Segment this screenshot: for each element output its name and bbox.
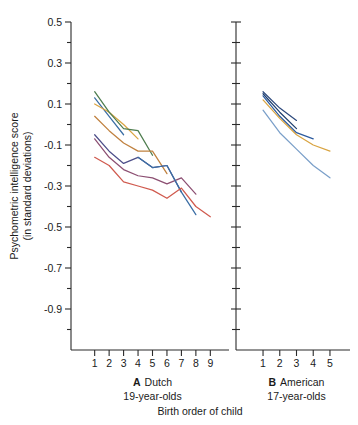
panel-name: American (280, 376, 325, 388)
panel-letter: B (269, 376, 277, 388)
x-tick-label-a: 8 (193, 357, 199, 369)
panel-caption-text: BAmerican (269, 376, 325, 388)
x-tick-label-b: 3 (294, 357, 300, 369)
y-tick-label: -0.9 (44, 303, 62, 315)
series-line-family-size-3 (95, 104, 138, 139)
y-axis-label: Psychometric intelligence score (in stan… (8, 112, 33, 259)
series-line-family-size-4 (95, 92, 153, 156)
x-tick-label-b: 4 (310, 357, 316, 369)
x-tick-label-a: 7 (178, 357, 184, 369)
series-line-family-size-5 (95, 116, 167, 173)
birth-order-intelligence-chart: Psychometric intelligence score (in stan… (0, 0, 358, 425)
panel-b-american: 12345BAmerican17-year-olds (231, 22, 350, 402)
panel-caption-a: ADutch19-year-olds (123, 376, 181, 402)
panel-caption-text: ADutch (133, 376, 172, 388)
x-tick-label-b: 5 (327, 357, 333, 369)
x-axis-label: Birth order of child (157, 405, 242, 417)
y-tick-label: 0.1 (47, 98, 62, 110)
series-line-family-size-2 (95, 98, 124, 135)
x-tick-label-a: 2 (106, 357, 112, 369)
x-tick-label-a: 9 (207, 357, 213, 369)
x-tick-label-a: 3 (121, 357, 127, 369)
panel-a-dutch: 123456789ADutch19-year-olds (71, 92, 229, 402)
y-tick-label: -0.7 (44, 262, 62, 274)
y-axis-label-line1: Psychometric intelligence score (8, 112, 20, 259)
series-line-family-size-9 (95, 157, 211, 216)
y-tick-label: 0.3 (47, 57, 62, 69)
x-tick-label-b: 1 (260, 357, 266, 369)
y-tick-label: 0.5 (47, 16, 62, 28)
x-tick-label-b: 2 (277, 357, 283, 369)
x-tick-label-a: 1 (92, 357, 98, 369)
panel-subtitle: 17-year-olds (267, 390, 325, 402)
panel-caption-b: BAmerican17-year-olds (267, 376, 325, 402)
panel-name: Dutch (145, 376, 173, 388)
x-tick-label-a: 5 (150, 357, 156, 369)
y-tick-label: -0.3 (44, 180, 62, 192)
series-line-family-size-3 (263, 94, 296, 129)
panel-subtitle: 19-year-olds (123, 390, 181, 402)
y-tick-label: -0.5 (44, 221, 62, 233)
panel-letter: A (133, 376, 141, 388)
y-axis-label-line2: (in standard deviations) (21, 131, 33, 240)
y-tick-label: -0.1 (44, 139, 62, 151)
x-tick-label-a: 6 (164, 357, 170, 369)
y-axis: 0.50.30.1-0.1-0.3-0.5-0.7-0.9 (44, 16, 71, 350)
figure-container: Psychometric intelligence score (in stan… (0, 0, 358, 425)
x-tick-label-a: 4 (135, 357, 141, 369)
series-line-family-size-8 (138, 157, 196, 214)
